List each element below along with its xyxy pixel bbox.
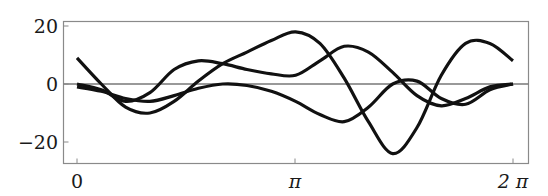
y-axis-ticks: 200−20 <box>18 15 69 153</box>
x-tick-label: π <box>288 170 302 192</box>
series-line-2 <box>77 46 513 106</box>
data-series <box>77 32 513 154</box>
y-tick-label: 0 <box>46 73 58 95</box>
line-chart: 200−20 0π2 π <box>0 0 548 196</box>
y-tick-label: −20 <box>18 131 58 153</box>
series-line-3 <box>77 80 513 122</box>
y-tick-label: 20 <box>34 15 58 37</box>
x-tick-label: 2 π <box>497 170 529 192</box>
x-tick-label: 0 <box>71 170 83 192</box>
series-line-1 <box>77 32 513 154</box>
plot-frame <box>64 22 529 164</box>
